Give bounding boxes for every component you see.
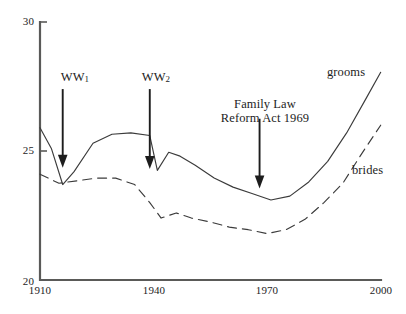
annotation-label-ww1-text: WW — [61, 70, 85, 84]
series-label-brides: brides — [352, 163, 383, 177]
x-axis-tick-label-1940: 1940 — [143, 284, 165, 296]
annotation-label-ww2-text: WW — [142, 70, 166, 84]
annotation-arrow-ww1 — [58, 89, 68, 168]
annotation-label-family-law-line-1: Family Law — [221, 97, 309, 111]
series-line-brides — [40, 125, 381, 233]
annotation-arrow-ww2 — [145, 89, 155, 169]
y-axis-tick-label-30: 30 — [12, 15, 34, 27]
chart-container: 30 25 20 1910 1940 1970 2000 WW1 WW2 Fam… — [0, 0, 406, 314]
series-line-grooms — [40, 72, 381, 200]
annotation-label-family-law-line-2: Reform Act 1969 — [221, 111, 309, 125]
annotation-label-ww2: WW2 — [142, 70, 170, 84]
annotation-label-ww1-subscript: 1 — [85, 74, 90, 84]
series-label-grooms: grooms — [327, 65, 365, 79]
annotation-label-family-law-reform-act: Family Law Reform Act 1969 — [221, 97, 309, 125]
annotation-label-ww2-subscript: 2 — [166, 74, 171, 84]
y-axis-tick-label-25: 25 — [12, 144, 34, 156]
chart-plot-area — [0, 0, 406, 314]
x-axis-tick-label-1970: 1970 — [256, 284, 278, 296]
x-axis-tick-label-1910: 1910 — [29, 284, 51, 296]
annotation-label-ww1: WW1 — [61, 70, 89, 84]
x-axis-tick-label-2000: 2000 — [370, 284, 392, 296]
chart-axes — [40, 22, 381, 280]
annotation-arrow-family-law-reform-act — [255, 119, 265, 189]
